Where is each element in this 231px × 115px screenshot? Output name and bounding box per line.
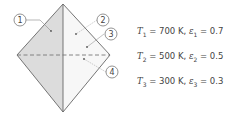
surface-2-properties: T2 = 500 K, ε2 = 0.5 [137, 51, 223, 63]
label-2: 2 [100, 16, 105, 25]
label-3: 3 [108, 30, 113, 39]
label-1: 1 [17, 16, 22, 25]
surface-1-properties: T1 = 700 K, ε1 = 0.7 [137, 26, 223, 38]
surface-3-properties: T3 = 300 K, ε3 = 0.3 [137, 76, 223, 88]
label-4: 4 [109, 68, 114, 77]
